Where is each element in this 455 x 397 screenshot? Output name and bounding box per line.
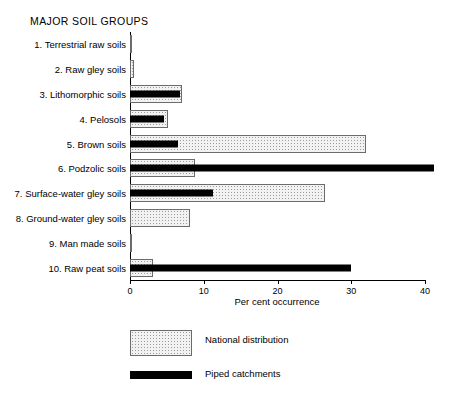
bar-piped-catchments [130,165,434,172]
category-label: 6. Podzolic soils [58,163,126,174]
legend-label-national: National distribution [205,334,288,345]
category-label: 2. Raw gley soils [55,64,126,75]
x-axis-title: Per cent occurrence [234,296,319,307]
x-axis-tick [425,280,426,284]
bar-national-distribution [130,209,190,227]
bar-row: 8. Ground-water gley soils [130,206,425,231]
bar-row: 4. Pelosols [130,106,425,131]
category-label: 7. Surface-water gley soils [15,188,126,199]
bar-piped-catchments [130,115,164,122]
bar-piped-catchments [130,90,180,97]
bar-piped-catchments [130,264,351,271]
category-label: 10. Raw peat soils [48,262,126,273]
category-label: 5. Brown soils [67,138,126,149]
category-label: 3. Lithomorphic soils [39,88,126,99]
legend-label-piped: Piped catchments [205,368,281,379]
bar-row: 9. Man made soils [130,230,425,255]
bar-national-distribution [130,234,132,252]
x-axis-tick-label: 0 [127,286,132,296]
chart-figure: MAJOR SOIL GROUPS 1. Terrestrial raw soi… [0,0,455,397]
x-axis-tick [130,280,131,284]
bar-national-distribution [130,35,132,53]
piped-catchments-swatch-icon [130,371,192,379]
category-label: 8. Ground-water gley soils [16,212,126,223]
category-label: 4. Pelosols [80,113,126,124]
x-axis-tick-label: 20 [272,286,282,296]
bar-row: 2. Raw gley soils [130,57,425,82]
x-axis-tick-label: 10 [199,286,209,296]
bar-piped-catchments [130,190,213,197]
bar-national-distribution [130,60,134,78]
category-label: 1. Terrestrial raw soils [34,39,126,50]
x-axis-tick-label: 30 [346,286,356,296]
page-title: MAJOR SOIL GROUPS [30,15,148,27]
x-axis-tick [351,280,352,284]
x-axis-tick [204,280,205,284]
x-axis-tick [278,280,279,284]
bar-row: 6. Podzolic soils [130,156,425,181]
bar-row: 5. Brown soils [130,131,425,156]
category-label: 9. Man made soils [49,237,126,248]
bar-row: 3. Lithomorphic soils [130,82,425,107]
national-distribution-swatch-icon [130,330,192,356]
bar-row: 1. Terrestrial raw soils [130,32,425,57]
x-axis-tick-label: 40 [420,286,430,296]
bar-piped-catchments [130,140,178,147]
bar-row: 7. Surface-water gley soils [130,181,425,206]
bar-row: 10. Raw peat soils [130,255,425,280]
